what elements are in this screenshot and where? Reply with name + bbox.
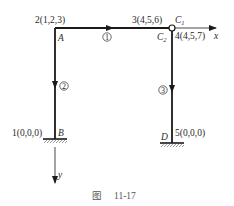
node-4-label: 4(4,5,7) (175, 31, 205, 42)
node-2-label: 2(1,2,3) (35, 15, 65, 26)
element-3-number: 3 (159, 86, 167, 95)
node-1-label: 1(0,0,0) (12, 128, 42, 139)
element-2-number: 2 (60, 82, 68, 91)
figure-caption-number: 11-17 (114, 191, 136, 201)
svg-text:1: 1 (105, 33, 109, 42)
x-axis-label: x (213, 31, 219, 41)
svg-text:3: 3 (161, 86, 165, 95)
fixed-support-b (43, 139, 67, 143)
element-1-number: 1 (103, 33, 111, 42)
point-c2-label: C2 (157, 32, 167, 43)
y-axis-label: y (57, 170, 63, 180)
svg-text:2: 2 (62, 82, 66, 91)
point-b-label: B (58, 128, 64, 138)
node-3-label: 3(4,5,6) (132, 15, 162, 26)
element-3-direction-arrow (169, 85, 175, 93)
point-d-label: D (160, 132, 168, 142)
element-1-direction-arrow (106, 25, 114, 31)
point-a-label: A (57, 33, 64, 43)
node-5-label: 5(0,0,0) (175, 128, 205, 139)
fixed-support-d (160, 143, 184, 147)
element-2-direction-arrow (52, 81, 58, 89)
point-c1-label: C1 (175, 15, 185, 26)
frame-diagram: 2(1,2,3) A 3(4,5,6) C1 C2 4(4,5,7) x 1(0… (0, 0, 234, 206)
figure-caption-prefix: 图 (92, 191, 102, 201)
